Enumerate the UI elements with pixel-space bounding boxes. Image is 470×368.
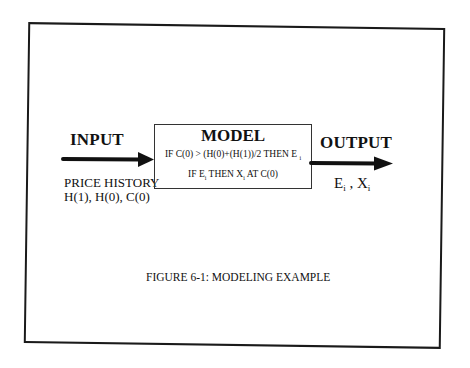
output-var-e: E: [334, 175, 343, 191]
model-rule-1-text: IF C(0) > (H(0)+(H(1))/2 THEN E: [165, 149, 297, 159]
model-rule-2-part3: AT C(0): [245, 169, 278, 179]
model-rule-2: IF Ei THEN Xi AT C(0): [155, 169, 311, 181]
output-label: OUTPUT: [320, 133, 392, 153]
input-label: INPUT: [70, 130, 124, 150]
figure-caption: FIGURE 6-1: MODELING EXAMPLE: [146, 271, 330, 283]
input-description-line2: H(1), H(0), C(0): [64, 190, 150, 204]
model-title: MODEL: [155, 126, 311, 146]
model-box: MODEL IF C(0) > (H(0)+(H(1))/2 THEN E i …: [154, 124, 312, 189]
model-rule-1-sub: i: [299, 155, 301, 161]
model-rule-2-part2: THEN X: [206, 169, 243, 179]
output-separator: ,: [346, 175, 357, 191]
input-arrow-icon: [60, 150, 156, 170]
output-variables: Ei , Xi: [334, 175, 370, 193]
output-var-x: X: [357, 175, 368, 191]
model-rule-1: IF C(0) > (H(0)+(H(1))/2 THEN E i: [155, 149, 311, 161]
input-description-line1: PRICE HISTORY: [64, 176, 159, 190]
output-var-x-sub: i: [368, 183, 371, 193]
output-arrow-icon: [309, 154, 397, 174]
model-rule-2-part1: IF E: [188, 169, 205, 179]
